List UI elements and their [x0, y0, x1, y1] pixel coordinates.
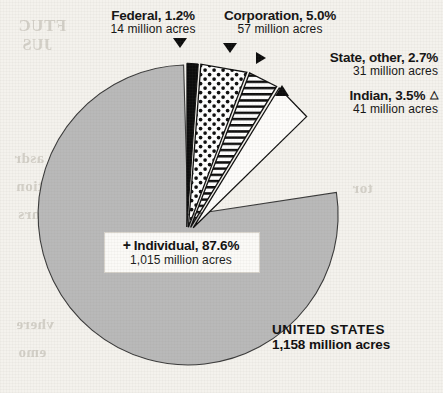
slice-label-state-other: State, other, 2.7% 31 million acres: [272, 50, 438, 79]
chart-total-block: UNITED STATES 1,158 million acres: [272, 322, 390, 352]
corporation-headline: Corporation, 5.0%: [205, 8, 355, 23]
triangle-outline-icon-indian: △: [430, 88, 438, 100]
triangle-right-icon-state-other: [256, 52, 266, 64]
chart-total-acres: 1,158 million acres: [272, 337, 390, 352]
slice-label-corporation: Corporation, 5.0% 57 million acres: [205, 8, 355, 37]
triangle-down-icon-corporation: [223, 43, 237, 53]
plus-icon-individual: +: [123, 237, 131, 253]
slice-callout-individual: +Individual, 87.6% 1,015 million acres: [104, 232, 260, 273]
triangle-up-icon-indian: [275, 85, 289, 96]
triangle-down-icon-federal: [173, 38, 187, 48]
slice-label-indian: Indian, 3.5%△ 41 million acres: [300, 88, 438, 117]
individual-acres: 1,015 million acres: [113, 253, 249, 267]
individual-headline: +Individual, 87.6%: [113, 237, 249, 253]
corporation-acres: 57 million acres: [205, 23, 355, 36]
indian-acres: 41 million acres: [300, 103, 438, 116]
state-other-acres: 31 million acres: [272, 65, 438, 78]
pie-chart-figure: FTUC JUS asdr tion nrs vhere emo tor: [0, 0, 443, 393]
indian-headline: Indian, 3.5%△: [300, 88, 438, 103]
state-other-headline: State, other, 2.7%: [272, 50, 438, 65]
chart-title: UNITED STATES: [272, 322, 390, 337]
